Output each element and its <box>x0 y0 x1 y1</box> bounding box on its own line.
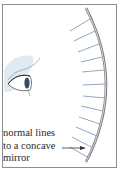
normal-lines <box>70 19 106 158</box>
caption-line: mirror <box>3 152 55 165</box>
caption-line: to a concave <box>3 140 55 153</box>
caption: normal lines to a concave mirror <box>3 127 55 165</box>
caption-line: normal lines <box>3 127 55 140</box>
